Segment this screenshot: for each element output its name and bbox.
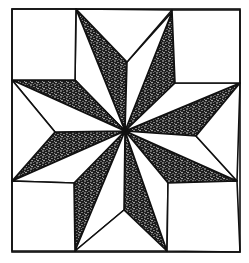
corner-square-bottom-left xyxy=(12,181,75,251)
corner-square-top-left xyxy=(12,9,76,80)
corner-square-top-right xyxy=(172,10,240,83)
quilt-block-illustration xyxy=(0,0,249,263)
corner-square-bottom-right xyxy=(167,181,240,252)
quilt-star-drawing xyxy=(0,0,249,263)
